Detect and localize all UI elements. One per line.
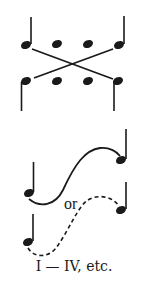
note-head-bottom-2 (51, 75, 64, 86)
voice-leading-diagram (0, 0, 166, 282)
caption: I — IV, etc. (0, 258, 148, 274)
note-head-bottom-3 (82, 75, 95, 86)
or-label: or (64, 195, 77, 213)
note-head-top-3 (82, 38, 95, 49)
note-head-top-2 (51, 38, 64, 49)
